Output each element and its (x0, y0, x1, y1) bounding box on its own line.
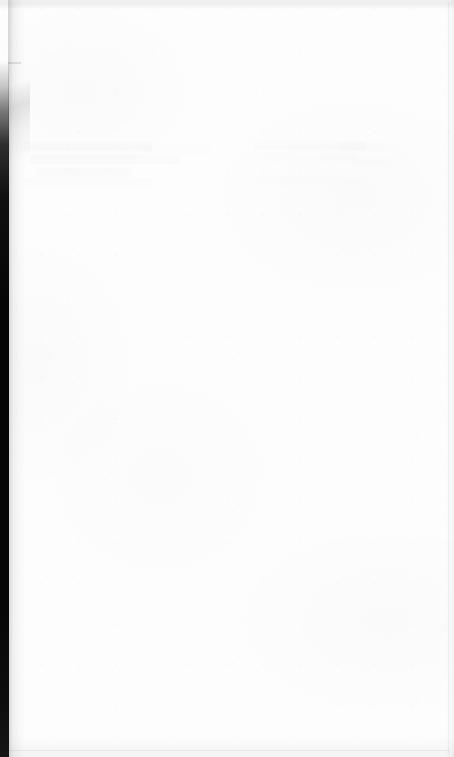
scanned-page: No legible text is rendered on this page… (0, 0, 454, 757)
page-corner-curl (0, 0, 30, 160)
top-page-edge (0, 0, 454, 9)
bottom-page-edge (0, 735, 454, 757)
right-page-edge-shade (444, 0, 454, 757)
page-corner-step (8, 62, 21, 64)
right-trim-hairline (448, 2, 449, 755)
bottom-hairline (8, 750, 450, 751)
paper-surface (0, 0, 454, 757)
